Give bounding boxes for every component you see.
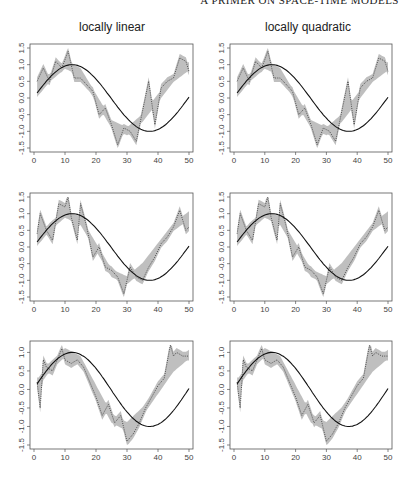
plot-row3-quadratic: 01020304050-1.5-1.0-0.50.00.51.0 <box>200 333 399 468</box>
y-tick-label: 1.0 <box>217 59 226 71</box>
x-tick-label: 20 <box>291 453 300 462</box>
y-tick-label: -0.5 <box>17 107 26 121</box>
y-tick-label: -0.5 <box>17 256 26 270</box>
x-tick-label: 50 <box>185 305 194 314</box>
x-tick-label: 50 <box>384 305 393 314</box>
y-tick-label: 1.0 <box>17 208 26 220</box>
x-tick-label: 20 <box>92 305 101 314</box>
y-tick-label: -1.0 <box>17 419 26 433</box>
column-title-locally-linear: locally linear <box>32 20 192 34</box>
y-tick-label: 0.0 <box>217 383 226 395</box>
plot-row2-linear: 01020304050-1.5-1.0-0.50.00.51.01.5 <box>0 185 200 320</box>
x-tick-label: 40 <box>154 305 163 314</box>
x-tick-label: 50 <box>384 453 393 462</box>
x-tick-label: 30 <box>322 305 331 314</box>
x-tick-label: 30 <box>322 156 331 165</box>
x-tick-label: 10 <box>260 156 269 165</box>
y-tick-label: -0.5 <box>217 401 226 415</box>
confidence-band <box>237 345 388 445</box>
x-tick-label: 20 <box>92 453 101 462</box>
x-tick-label: 50 <box>185 156 194 165</box>
y-tick-label: 0.0 <box>217 241 226 253</box>
y-tick-label: 0.0 <box>17 383 26 395</box>
y-tick-label: -0.5 <box>17 401 26 415</box>
x-tick-label: 10 <box>61 305 70 314</box>
x-tick-label: 40 <box>154 453 163 462</box>
y-tick-label: 1.5 <box>17 191 26 203</box>
y-tick-label: 1.5 <box>17 42 26 54</box>
confidence-band <box>37 197 189 297</box>
y-tick-label: 0.5 <box>17 365 26 377</box>
x-tick-label: 10 <box>260 305 269 314</box>
plot-row3-linear: 01020304050-1.5-1.0-0.50.00.51.0 <box>0 333 200 468</box>
x-tick-label: 0 <box>32 453 37 462</box>
y-tick-label: 0.5 <box>217 365 226 377</box>
x-tick-label: 0 <box>32 305 37 314</box>
x-tick-label: 40 <box>154 156 163 165</box>
y-tick-label: 0.0 <box>17 92 26 104</box>
y-tick-label: 0.0 <box>17 241 26 253</box>
y-tick-label: 1.5 <box>217 42 226 54</box>
y-tick-label: -0.5 <box>217 256 226 270</box>
column-title-locally-quadratic: locally quadratic <box>228 20 388 34</box>
y-tick-label: 0.5 <box>17 224 26 236</box>
y-tick-label: 1.0 <box>217 208 226 220</box>
x-tick-label: 10 <box>61 453 70 462</box>
y-tick-label: -0.5 <box>217 107 226 121</box>
confidence-band <box>237 48 388 148</box>
confidence-band <box>37 48 189 148</box>
y-tick-label: 0.5 <box>217 75 226 87</box>
x-tick-label: 30 <box>123 305 132 314</box>
y-tick-label: 0.5 <box>17 75 26 87</box>
x-tick-label: 50 <box>185 453 194 462</box>
x-tick-label: 30 <box>123 156 132 165</box>
y-tick-label: 1.0 <box>217 346 226 358</box>
y-tick-label: 1.5 <box>217 191 226 203</box>
running-title: A PRIMER ON SPACE-TIME MODELS <box>200 0 399 6</box>
y-tick-label: -1.5 <box>217 438 226 452</box>
x-tick-label: 40 <box>353 156 362 165</box>
x-tick-label: 20 <box>291 305 300 314</box>
x-tick-label: 40 <box>353 305 362 314</box>
y-tick-label: -1.5 <box>217 141 226 155</box>
x-tick-label: 20 <box>92 156 101 165</box>
x-tick-label: 10 <box>61 156 70 165</box>
y-tick-label: 0.5 <box>217 224 226 236</box>
y-tick-label: -1.5 <box>17 141 26 155</box>
x-tick-label: 0 <box>32 156 37 165</box>
x-tick-label: 0 <box>232 305 237 314</box>
y-tick-label: -1.0 <box>17 124 26 138</box>
y-tick-label: -1.0 <box>217 124 226 138</box>
plot-row1-linear: 01020304050-1.5-1.0-0.50.00.51.01.5 <box>0 36 200 171</box>
plot-row1-quadratic: 01020304050-1.5-1.0-0.50.00.51.01.5 <box>200 36 399 171</box>
plot-row2-quadratic: 01020304050-1.5-1.0-0.50.00.51.01.5 <box>200 185 399 320</box>
x-tick-label: 0 <box>232 453 237 462</box>
y-tick-label: -1.5 <box>17 290 26 304</box>
y-tick-label: -1.0 <box>217 273 226 287</box>
y-tick-label: 1.0 <box>17 59 26 71</box>
x-tick-label: 10 <box>260 453 269 462</box>
confidence-band <box>237 197 388 297</box>
y-tick-label: 0.0 <box>217 92 226 104</box>
y-tick-label: 1.0 <box>17 346 26 358</box>
y-tick-label: -1.5 <box>217 290 226 304</box>
x-tick-label: 0 <box>232 156 237 165</box>
confidence-band <box>37 345 189 445</box>
x-tick-label: 30 <box>322 453 331 462</box>
x-tick-label: 20 <box>291 156 300 165</box>
x-tick-label: 50 <box>384 156 393 165</box>
x-tick-label: 30 <box>123 453 132 462</box>
y-tick-label: -1.0 <box>217 419 226 433</box>
y-tick-label: -1.5 <box>17 438 26 452</box>
y-tick-label: -1.0 <box>17 273 26 287</box>
x-tick-label: 40 <box>353 453 362 462</box>
